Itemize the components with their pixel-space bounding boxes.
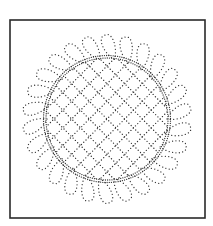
grid-line (43, 91, 135, 183)
grid-line (35, 47, 127, 139)
grid-line (35, 100, 127, 192)
loop-petal (62, 41, 90, 67)
loop-petal (47, 157, 67, 186)
loop-petal (34, 143, 59, 171)
grid-line (114, 126, 206, 218)
outer-loop-ring (21, 33, 193, 205)
loop-petal (161, 83, 188, 109)
grid-line (114, 20, 206, 112)
rosette-diagram (0, 0, 213, 226)
grid-line (105, 29, 197, 121)
figure-frame (10, 20, 205, 218)
loop-petal (119, 36, 134, 63)
loop-petal (109, 175, 134, 203)
loop-petal (155, 66, 180, 94)
loop-petal (25, 129, 52, 155)
crosshatch-grid (8, 20, 206, 218)
loop-petal (94, 176, 115, 205)
loop-petal (47, 52, 76, 75)
grid-line (105, 117, 197, 209)
loop-petal (124, 171, 152, 197)
loop-petal (99, 33, 120, 62)
loop-petal (138, 163, 167, 186)
inner-ring-outer (44, 56, 171, 183)
grid-line (43, 55, 135, 147)
loop-petal (35, 67, 63, 85)
